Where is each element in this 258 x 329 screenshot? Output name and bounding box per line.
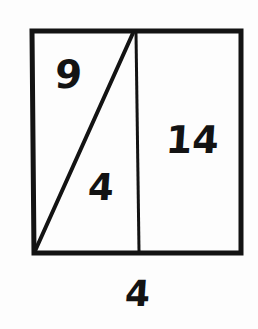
- vertical-divider-path: [136, 33, 139, 251]
- label-right-region: 14: [165, 121, 221, 159]
- label-lower-middle-region: 4: [87, 169, 115, 206]
- diagonal-line: [35, 33, 133, 251]
- vertical-divider-line: [136, 33, 139, 251]
- diagonal-path: [35, 33, 133, 251]
- label-bottom-base: 4: [124, 276, 152, 312]
- geometry-figure: 9 4 14 4: [0, 0, 258, 329]
- label-upper-left-region: 9: [54, 55, 84, 94]
